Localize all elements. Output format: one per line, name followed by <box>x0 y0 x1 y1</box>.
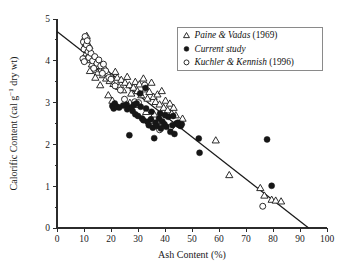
point-open-circle <box>100 61 106 67</box>
legend-entry-label: Paine & Vadas (1969) <box>194 30 278 41</box>
point-filled-circle <box>171 131 177 137</box>
x-tick-label: 100 <box>320 234 335 244</box>
x-tick-label: 20 <box>106 234 116 244</box>
point-open-circle <box>99 70 105 76</box>
point-filled-circle <box>170 113 176 119</box>
point-open-circle <box>112 83 118 89</box>
point-filled-circle <box>175 120 181 126</box>
y-axis-title: Calorific Content (cal g−1 dry wt) <box>7 57 20 191</box>
point-filled-circle <box>163 124 169 130</box>
point-filled-circle <box>184 46 189 51</box>
point-filled-circle <box>137 90 143 96</box>
y-tick-label: 4 <box>45 56 50 66</box>
point-open-circle <box>184 60 189 65</box>
legend-entry-label: Kuchler & Kennish (1996) <box>194 57 294 68</box>
x-tick-label: 0 <box>55 234 60 244</box>
y-tick-label: 0 <box>45 223 50 233</box>
y-tick-label: 1 <box>45 182 50 192</box>
x-tick-label: 70 <box>241 234 251 244</box>
point-open-circle <box>86 45 92 51</box>
point-filled-circle <box>149 109 155 115</box>
scatter-plot: 0102030405060708090100012345 Paine & Vad… <box>0 0 342 279</box>
point-filled-circle <box>126 132 132 138</box>
point-open-circle <box>91 65 97 71</box>
point-filled-circle <box>197 150 203 156</box>
y-tick-label: 2 <box>45 140 50 150</box>
y-tick-label: 3 <box>45 98 50 108</box>
x-tick-label: 60 <box>214 234 224 244</box>
x-tick-label: 50 <box>187 234 197 244</box>
point-filled-circle <box>124 106 130 112</box>
x-tick-label: 40 <box>160 234 170 244</box>
point-filled-circle <box>151 135 157 141</box>
point-open-circle <box>117 87 123 93</box>
figure-container: 0102030405060708090100012345 Paine & Vad… <box>0 0 342 279</box>
point-filled-circle <box>134 100 140 106</box>
x-tick-label: 30 <box>133 234 143 244</box>
x-tick-label: 80 <box>268 234 278 244</box>
legend[interactable]: Paine & Vadas (1969)Current studyKuchler… <box>178 28 323 71</box>
point-filled-circle <box>264 136 270 142</box>
x-tick-label: 10 <box>79 234 89 244</box>
point-filled-circle <box>116 105 122 111</box>
x-tick-label: 90 <box>295 234 305 244</box>
point-filled-circle <box>143 105 149 111</box>
y-tick-label: 5 <box>45 14 50 24</box>
point-open-circle <box>84 38 90 44</box>
legend-entry-label: Current study <box>195 44 247 54</box>
point-filled-circle <box>269 183 275 189</box>
point-filled-circle <box>143 85 149 91</box>
point-open-circle <box>122 96 128 102</box>
legend-entry-1[interactable]: Paine & Vadas (1969) <box>184 30 278 41</box>
point-filled-circle <box>196 136 202 142</box>
point-open-circle <box>260 203 266 209</box>
point-open-circle <box>108 76 114 82</box>
legend-entry-3[interactable]: Kuchler & Kennish (1996) <box>184 57 294 68</box>
point-filled-circle <box>162 112 168 118</box>
x-axis-title: Ash Content (%) <box>158 249 226 261</box>
